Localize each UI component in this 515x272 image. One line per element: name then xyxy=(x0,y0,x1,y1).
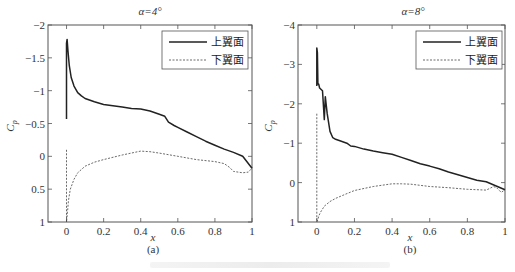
y-tick-label: −2 xyxy=(283,98,295,110)
y-tick-label: −1 xyxy=(283,137,295,149)
y-tick-label: −1 xyxy=(33,85,45,97)
x-tick-label: 0 xyxy=(314,225,320,237)
chart-panel-b: α=8° −4−3−2−101 00.20.40.60.81 x Cp (b) … xyxy=(262,5,508,256)
y-tick-label: −3 xyxy=(283,58,295,70)
legend-a: 上翼面 下翼面 xyxy=(162,31,248,69)
chart-panel-a: α=4° −2−1.5−1−0.500.51 00.20.40.60.81 x … xyxy=(4,5,255,256)
legend-label-lower-b: 下翼面 xyxy=(465,54,498,67)
series-line-lower xyxy=(67,150,253,222)
x-axis-label-a: x xyxy=(150,231,156,243)
x-tick-label: 0.2 xyxy=(348,225,362,237)
y-tick-label: −1.5 xyxy=(25,52,45,64)
y-tick-label: 0 xyxy=(290,177,296,189)
x-tick-label: 1 xyxy=(249,225,255,237)
y-tick-label: 1 xyxy=(40,216,46,228)
chart-title-b: α=8° xyxy=(401,5,425,17)
x-tick-label: 1 xyxy=(502,225,508,237)
chart-title-a: α=4° xyxy=(138,5,162,17)
x-tick-label: 0.8 xyxy=(460,225,474,237)
panel-caption-b: (b) xyxy=(404,243,417,256)
x-axis-label-b: x xyxy=(407,231,413,243)
y-axis-label-a: Cp xyxy=(4,120,19,131)
legend-label-upper-a: 上翼面 xyxy=(211,36,244,49)
legend-b: 上翼面 下翼面 xyxy=(416,31,502,69)
figure-caption-blurred xyxy=(150,262,390,268)
y-axis-label-b: Cp xyxy=(262,120,277,131)
y-tick-label: 0.5 xyxy=(31,183,45,195)
x-tick-label: 0.2 xyxy=(97,225,111,237)
y-tick-label: −4 xyxy=(283,19,295,31)
x-tick-label: 0.8 xyxy=(208,225,222,237)
x-tick-label: 0.6 xyxy=(171,225,185,237)
panel-caption-a: (a) xyxy=(147,243,160,256)
y-tick-label: 0 xyxy=(40,150,46,162)
series-line-lower xyxy=(317,114,505,222)
legend-label-lower-a: 下翼面 xyxy=(211,54,244,67)
x-tick-label: 0.4 xyxy=(385,225,399,237)
legend-label-upper-b: 上翼面 xyxy=(465,36,498,49)
chart-figure: α=4° −2−1.5−1−0.500.51 00.20.40.60.81 x … xyxy=(0,0,515,272)
y-tick-label: −0.5 xyxy=(25,118,45,130)
x-tick-label: 0 xyxy=(64,225,70,237)
x-tick-label: 0.4 xyxy=(134,225,148,237)
y-tick-label: 1 xyxy=(290,216,296,228)
series-group-b xyxy=(317,48,505,222)
y-tick-label: −2 xyxy=(33,19,45,31)
x-tick-label: 0.6 xyxy=(423,225,437,237)
